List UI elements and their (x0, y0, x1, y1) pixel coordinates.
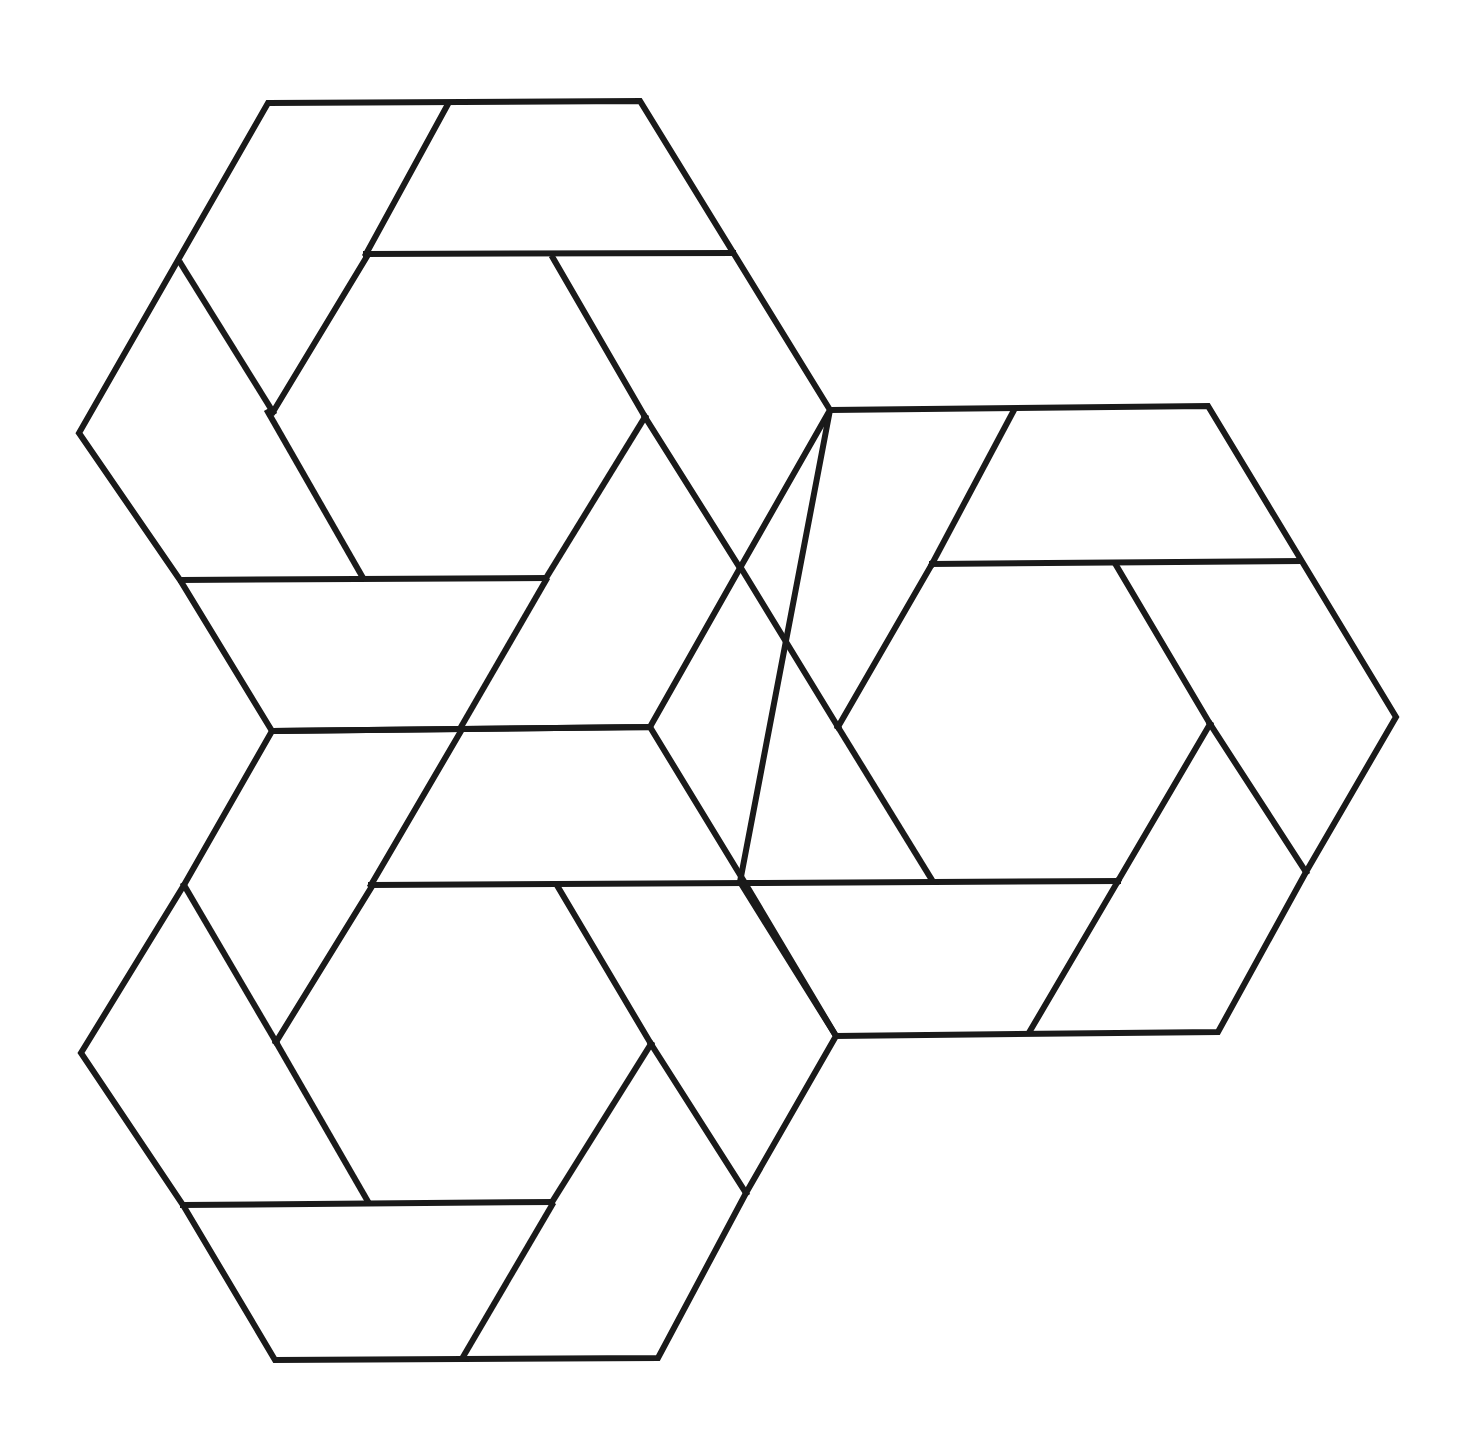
inner-division-line (181, 578, 546, 580)
inner-division-line (838, 727, 932, 880)
inner-division-line (838, 564, 932, 727)
outer-hexagon-outline (79, 101, 830, 731)
inner-division-line (181, 264, 273, 412)
inner-division-line (558, 887, 651, 1044)
inner-division-line (1030, 881, 1118, 1031)
inner-division-line (366, 253, 733, 254)
inner-division-line (461, 580, 546, 727)
inner-division-line (184, 885, 276, 1042)
inner-division-line (1118, 724, 1210, 881)
right-hexagon (740, 406, 1396, 1036)
inner-division-line (268, 412, 363, 578)
inner-division-line (276, 888, 371, 1042)
inner-division-line (463, 1205, 552, 1357)
top-left-hexagon (79, 101, 830, 731)
inner-division-line (651, 1044, 746, 1193)
bottom-left-hexagon (81, 727, 836, 1360)
inner-division-line (553, 258, 645, 417)
inner-division-line (745, 881, 1118, 883)
inner-division-line (552, 1044, 651, 1202)
inner-division-line (546, 417, 645, 578)
inner-division-line (276, 1042, 367, 1200)
inner-division-line (273, 258, 366, 412)
inner-division-line (183, 1202, 552, 1205)
outer-hexagon-outline (81, 727, 836, 1360)
inner-division-line (371, 731, 461, 885)
inner-division-line (645, 417, 740, 568)
inner-division-line (366, 104, 448, 254)
inner-division-line (741, 568, 838, 727)
hexagon-pattern-diagram (0, 0, 1480, 1442)
inner-division-line (932, 410, 1014, 564)
inner-division-line (1116, 565, 1210, 724)
inner-division-line (1210, 724, 1306, 872)
